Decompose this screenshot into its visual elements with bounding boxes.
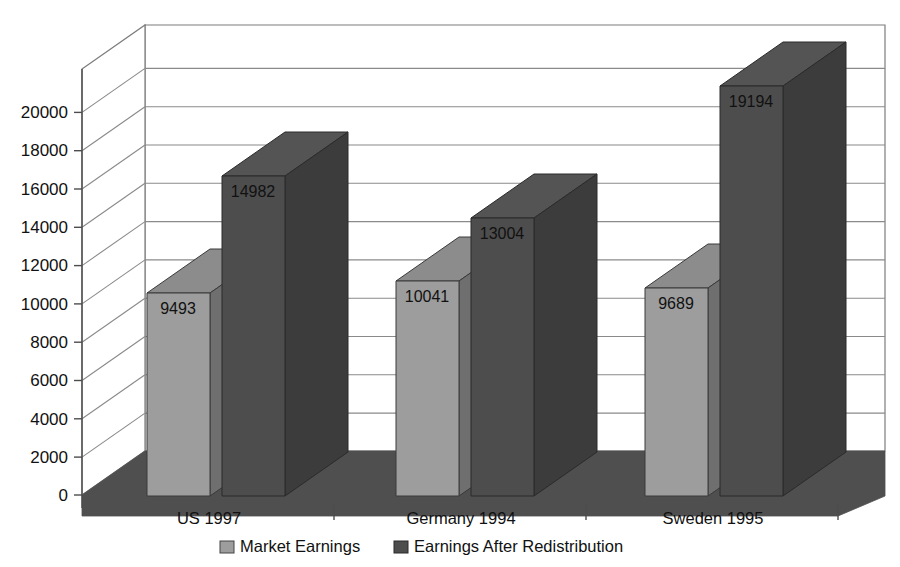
y-tick-label: 8000 (30, 333, 68, 352)
y-tick-label: 20000 (21, 103, 68, 122)
legend-label-market-earnings: Market Earnings (240, 537, 360, 555)
y-tick-label: 4000 (30, 410, 68, 429)
x-tick-label: Sweden 1995 (663, 509, 764, 527)
y-tick-label: 2000 (30, 448, 68, 467)
legend-item-market-earnings[interactable]: Market Earnings (220, 537, 360, 555)
bar-value-label: 19194 (729, 93, 774, 110)
legend-swatch-earnings-after-redistribution (394, 541, 408, 553)
legend-label-earnings-after-redistribution: Earnings After Redistribution (414, 537, 623, 555)
bar-value-label: 14982 (231, 183, 276, 200)
plot-left-wall (82, 25, 145, 495)
y-tick-label: 14000 (21, 218, 68, 237)
x-tick-label: Germany 1994 (406, 509, 515, 527)
y-tick-label: 16000 (21, 180, 68, 199)
bar-value-label: 9689 (658, 295, 694, 312)
chart-canvas: 20000 18000 16000 14000 12000 10000 8000… (0, 0, 900, 567)
y-tick-label: 10000 (21, 295, 68, 314)
bar-value-label: 13004 (480, 225, 525, 242)
bar-sweden-earnings-after-redistribution (720, 42, 846, 496)
y-tick-label: 0 (59, 486, 68, 505)
legend-item-earnings-after-redistribution[interactable]: Earnings After Redistribution (394, 537, 623, 555)
y-tick-label: 6000 (30, 371, 68, 390)
bar-chart-3d: 20000 18000 16000 14000 12000 10000 8000… (0, 0, 900, 567)
bar-value-label: 10041 (405, 288, 450, 305)
x-tick-label: US 1997 (177, 509, 241, 527)
bar-value-label: 9493 (160, 300, 196, 317)
legend: Market Earnings Earnings After Redistrib… (220, 537, 623, 555)
bar-germany-earnings-after-redistribution (471, 174, 597, 496)
y-tick-label: 18000 (21, 141, 68, 160)
y-tick-label: 12000 (21, 256, 68, 275)
legend-swatch-market-earnings (220, 541, 234, 553)
